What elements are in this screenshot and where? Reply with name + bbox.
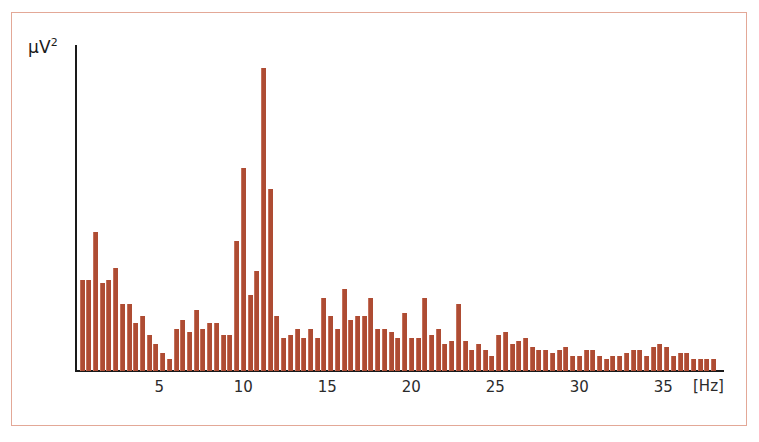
spectrum-bar — [463, 341, 468, 371]
spectrum-bar — [234, 241, 239, 371]
spectrum-bar — [100, 283, 105, 371]
spectrum-bar — [167, 359, 172, 371]
spectrum-bar — [194, 310, 199, 371]
spectrum-bar — [382, 329, 387, 371]
spectrum-bar — [355, 316, 360, 371]
spectrum-bar — [402, 313, 407, 371]
spectrum-bar — [510, 344, 515, 371]
spectrum-bar — [301, 338, 306, 371]
spectrum-bar — [335, 329, 340, 371]
spectrum-bar — [698, 359, 703, 371]
spectrum-bar — [416, 338, 421, 371]
spectrum-bar — [644, 356, 649, 371]
spectrum-bar — [657, 344, 662, 371]
x-tick-label: 30 — [570, 378, 589, 396]
spectrum-bar — [147, 335, 152, 371]
spectrum-bar — [422, 298, 427, 371]
spectrum-bar — [368, 298, 373, 371]
spectrum-bar — [604, 359, 609, 371]
x-tick-label: 25 — [486, 378, 505, 396]
spectrum-bar — [342, 289, 347, 371]
x-tick-label: 10 — [234, 378, 253, 396]
spectrum-bar — [174, 329, 179, 371]
spectrum-bar — [180, 320, 185, 372]
spectrum-bar — [436, 329, 441, 371]
spectrum-bar — [684, 353, 689, 371]
spectrum-bar — [315, 338, 320, 371]
spectrum-bar — [624, 353, 629, 371]
spectrum-bar — [160, 353, 165, 371]
spectrum-bar — [563, 347, 568, 371]
x-tick-label: 5 — [154, 378, 164, 396]
spectrum-bar — [321, 298, 326, 371]
spectrum-bar — [153, 344, 158, 371]
spectrum-bar — [617, 356, 622, 371]
spectrum-bar — [469, 350, 474, 371]
spectrum-bar — [483, 350, 488, 371]
spectrum-bar — [261, 68, 266, 371]
spectrum-bar — [678, 353, 683, 371]
spectrum-bar — [442, 344, 447, 371]
spectrum-bar — [127, 304, 132, 371]
spectrum-bar — [80, 280, 85, 371]
spectrum-bar — [281, 338, 286, 371]
spectrum-bar — [456, 304, 461, 371]
spectrum-bar — [651, 347, 656, 371]
spectrum-bar — [328, 316, 333, 371]
x-tick-label: 15 — [318, 378, 337, 396]
spectrum-bar — [274, 316, 279, 371]
spectrum-bar — [389, 332, 394, 371]
spectrum-bar — [362, 316, 367, 371]
spectrum-bar — [348, 320, 353, 372]
spectrum-bar — [241, 168, 246, 371]
spectrum-bar — [375, 329, 380, 371]
spectrum-bar — [584, 350, 589, 371]
spectrum-bar — [207, 323, 212, 371]
spectrum-bar — [93, 232, 98, 371]
spectrum-bar — [489, 356, 494, 371]
x-axis-unit-label: [Hz] — [693, 377, 724, 395]
spectrum-bar — [503, 332, 508, 371]
spectrum-bar — [570, 356, 575, 371]
x-tick-label: 20 — [402, 378, 421, 396]
spectrum-bar — [530, 347, 535, 371]
spectrum-bar — [671, 356, 676, 371]
spectrum-bar — [113, 268, 118, 371]
spectrum-bar — [133, 323, 138, 371]
spectrum-bar — [496, 335, 501, 371]
spectrum-bar — [631, 350, 636, 371]
spectrum-bar — [395, 338, 400, 371]
spectrum-bar — [187, 332, 192, 371]
spectrum-bar — [476, 344, 481, 371]
spectrum-bar — [295, 329, 300, 371]
spectrum-bar — [308, 329, 313, 371]
spectrum-bar — [543, 350, 548, 371]
spectrum-bar — [711, 359, 716, 371]
spectrum-bar — [248, 295, 253, 371]
spectrum-bar — [664, 347, 669, 371]
spectrum-bar — [557, 350, 562, 371]
bars-layer — [0, 0, 759, 442]
spectrum-bar — [597, 356, 602, 371]
x-tick-label: 35 — [654, 378, 673, 396]
eeg-power-spectrum-chart: μV2 5101520253035 [Hz] — [0, 0, 759, 442]
spectrum-bar — [637, 350, 642, 371]
spectrum-bar — [577, 356, 582, 371]
spectrum-bar — [449, 341, 454, 371]
spectrum-bar — [516, 341, 521, 371]
spectrum-bar — [590, 350, 595, 371]
spectrum-bar — [86, 280, 91, 371]
spectrum-bar — [288, 335, 293, 371]
spectrum-bar — [214, 323, 219, 371]
spectrum-bar — [140, 316, 145, 371]
spectrum-bar — [691, 359, 696, 371]
spectrum-bar — [550, 353, 555, 371]
spectrum-bar — [120, 304, 125, 371]
spectrum-bar — [536, 350, 541, 371]
spectrum-bar — [106, 280, 111, 371]
spectrum-bar — [254, 271, 259, 371]
spectrum-bar — [409, 338, 414, 371]
spectrum-bar — [429, 335, 434, 371]
spectrum-bar — [704, 359, 709, 371]
spectrum-bar — [523, 338, 528, 371]
